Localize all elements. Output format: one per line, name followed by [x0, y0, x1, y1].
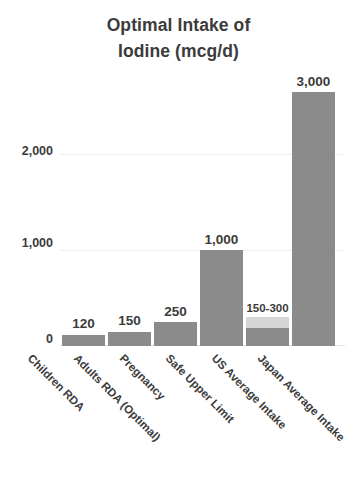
y-axis-tick-1000: 1,000 — [0, 237, 53, 249]
x-axis-label-adults-rda: Adults RDA (Optimal) — [72, 352, 163, 443]
x-axis-label-japan-average-intake: Japan Average Intake — [256, 352, 348, 444]
bar-us-average-intake[interactable] — [246, 328, 289, 346]
bar-group-japan-average-intake[interactable]: 3,000 — [292, 70, 335, 346]
bar-us-average-intake-range[interactable] — [246, 317, 289, 328]
bar-japan-average-intake[interactable] — [292, 92, 335, 346]
bar-group-us-average-intake[interactable]: 150-300 — [246, 70, 289, 346]
plot-area: 120 150 250 1,000 150-300 3,000 — [60, 70, 345, 346]
chart-title: Optimal Intake of Iodine (mcg/d) — [0, 12, 357, 64]
bar-adults-rda[interactable] — [108, 332, 151, 346]
bar-children-rda[interactable] — [62, 335, 105, 347]
chart-title-line-1: Optimal Intake of — [0, 12, 357, 38]
chart-container: Optimal Intake of Iodine (mcg/d) 2,000 1… — [0, 0, 357, 491]
chart-title-line-2: Iodine (mcg/d) — [0, 38, 357, 64]
bar-pregnancy[interactable] — [154, 322, 197, 346]
x-axis-label-pregnancy: Pregnancy — [118, 352, 168, 402]
bar-safe-upper-limit[interactable] — [200, 250, 243, 346]
bar-group-pregnancy[interactable]: 250 — [154, 70, 197, 346]
y-axis-tick-0: 0 — [0, 333, 53, 345]
bar-value-japan-average-intake: 3,000 — [269, 74, 357, 89]
y-axis-tick-2000: 2,000 — [0, 145, 53, 157]
bar-group-children-rda[interactable]: 120 — [62, 70, 105, 346]
x-axis-label-us-average-intake: US Average Intake — [210, 352, 289, 431]
